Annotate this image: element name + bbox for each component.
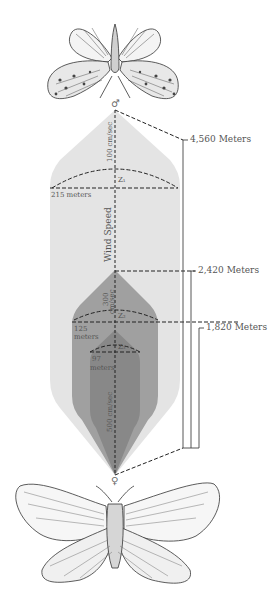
distance-label-2420: 2,420 Meters [198, 265, 259, 275]
middle-speed-label-2: cm/sec [108, 289, 116, 314]
male-moth-illustration [48, 24, 179, 99]
female-moth-illustration [16, 483, 220, 583]
inner-speed-label: 500 cm/sec [106, 392, 114, 432]
diagram-canvas [0, 0, 270, 611]
z2-label: Z₂ [118, 312, 126, 320]
outer-width-label: 215 meters [51, 191, 91, 199]
inner-width-label-1: 97 [92, 355, 101, 363]
distance-label-4560: 4,560 Meters [190, 134, 251, 144]
female-symbol: ♀ [111, 475, 118, 486]
plume-diagram: ♂ ♀ 100 cm/sec Z₁ 215 meters Wind Speed … [0, 0, 270, 611]
middle-width-label-2: meters [74, 333, 99, 341]
inner-width-label-2: meters [90, 364, 115, 372]
middle-width-label-1: 125 [74, 325, 87, 333]
male-symbol: ♂ [111, 98, 120, 109]
distance-label-1820: 1,820 Meters [206, 322, 267, 332]
wind-speed-axis-label: Wind Speed [103, 207, 113, 262]
z3-label: Z₃ [118, 343, 126, 351]
z1-label: Z₁ [118, 176, 126, 184]
outer-speed-label: 100 cm/sec [106, 122, 114, 162]
